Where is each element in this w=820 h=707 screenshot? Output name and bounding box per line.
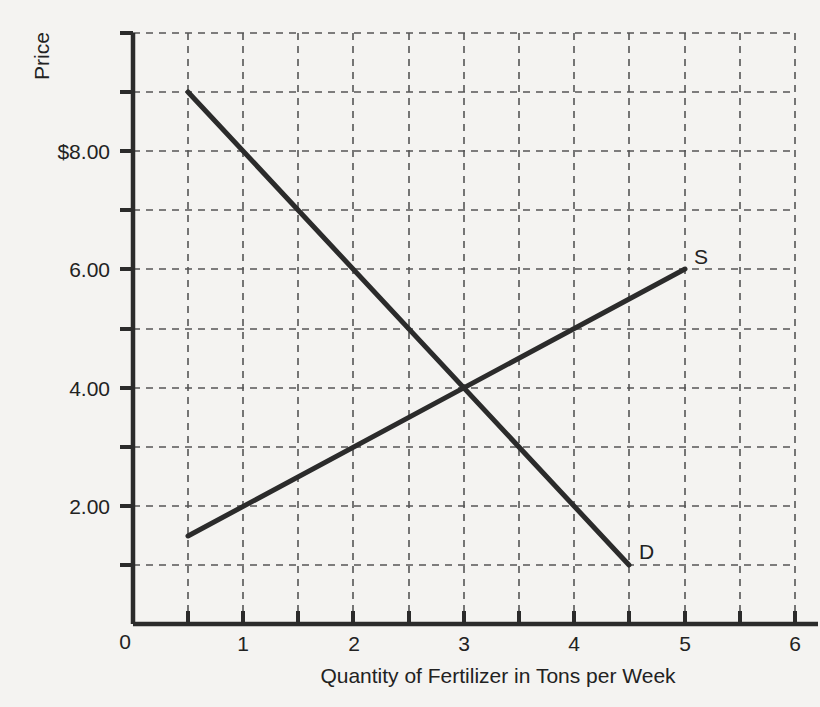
x-axis-title: Quantity of Fertilizer in Tons per Week (198, 664, 798, 688)
origin-label: 0 (113, 630, 137, 654)
y-tick-label-6: 6.00 (0, 258, 110, 282)
x-tick-label-6: 6 (775, 632, 815, 656)
grid-lines (133, 33, 795, 624)
y-tick-label-2: 2.00 (0, 495, 110, 519)
chart-canvas (0, 0, 820, 707)
x-tick-label-4: 4 (554, 632, 594, 656)
supply-curve (188, 269, 685, 536)
supply-curve-label: S (694, 245, 724, 269)
demand-curve-label: D (639, 540, 669, 564)
supply-demand-chart: Price Quantity of Fertilizer in Tons per… (0, 0, 820, 707)
x-tick-label-1: 1 (223, 632, 263, 656)
y-tick-label-4: 4.00 (0, 377, 110, 401)
x-tick-label-3: 3 (444, 632, 484, 656)
y-axis-title: Price (30, 6, 54, 106)
x-tick-label-2: 2 (334, 632, 374, 656)
x-tick-label-5: 5 (665, 632, 705, 656)
y-tick-label-8: $8.00 (0, 140, 110, 164)
